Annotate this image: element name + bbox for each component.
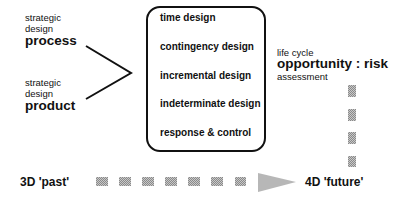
box-item-time-design: time design	[160, 12, 216, 23]
timeline-start-label: 3D 'past'	[20, 175, 69, 189]
arrowhead-icon	[258, 173, 296, 192]
timeline-dash	[96, 177, 108, 186]
vertical-dash	[348, 132, 356, 144]
timeline-end-label: 4D 'future'	[305, 175, 363, 189]
timeline-dash	[235, 177, 246, 186]
timeline-dash	[142, 177, 154, 186]
timeline-dash	[119, 177, 131, 186]
assessment-main: opportunity : risk	[277, 57, 388, 71]
box-item-indeterminate-design: indeterminate design	[160, 98, 261, 109]
box-item-incremental-design: incremental design	[160, 70, 251, 81]
timeline-dash	[165, 177, 177, 186]
assessment-line3: assessment	[277, 71, 328, 82]
vertical-dash	[348, 85, 356, 97]
box-item-contingency-design: contingency design	[160, 41, 254, 52]
vertical-dash	[348, 156, 356, 167]
vertical-dash	[348, 109, 356, 121]
timeline-dash	[188, 177, 200, 186]
timeline-dash	[211, 177, 223, 186]
box-item-response-control: response & control	[160, 127, 251, 138]
